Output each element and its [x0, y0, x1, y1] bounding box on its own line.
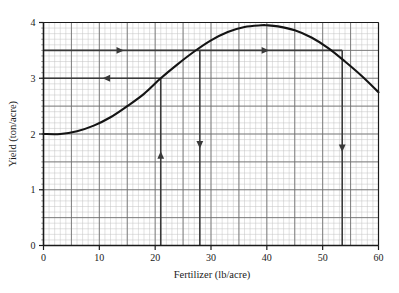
y-tick-label: 3: [31, 73, 36, 84]
y-tick-label: 4: [31, 17, 36, 28]
x-tick-label: 30: [206, 252, 216, 263]
x-tick-label: 50: [318, 252, 328, 263]
yield-vs-fertilizer-chart: 010203040506001234 Fertilizer (lb/acre) …: [0, 0, 399, 293]
x-tick-label: 10: [94, 252, 104, 263]
y-tick-label: 1: [31, 184, 36, 195]
x-tick-label: 0: [41, 252, 46, 263]
y-tick-label: 0: [31, 240, 36, 251]
x-tick-label: 40: [262, 252, 272, 263]
x-tick-label: 60: [374, 252, 384, 263]
x-axis-label: Fertilizer (lb/acre): [174, 269, 251, 281]
y-axis-label: Yield (ton/acre): [7, 100, 19, 167]
y-tick-label: 2: [31, 129, 36, 140]
x-tick-label: 20: [150, 252, 160, 263]
chart-figure: 010203040506001234 Fertilizer (lb/acre) …: [0, 0, 399, 293]
